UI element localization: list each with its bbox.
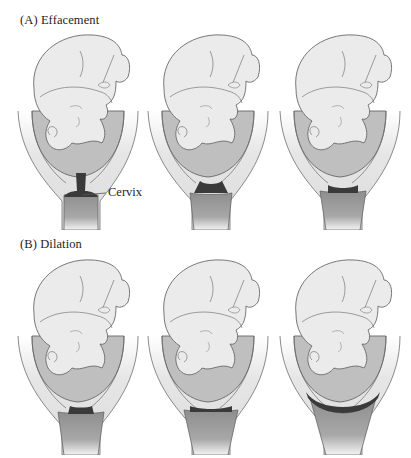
- panel-effacement-stage-2: [140, 25, 275, 230]
- fetus-uterus-illustration: [10, 250, 145, 455]
- panel-dilation-stage-2: [140, 250, 275, 455]
- panel-effacement-stage-3: [272, 25, 407, 230]
- fetus-uterus-illustration: [140, 25, 275, 230]
- cervix-callout-label: Cervix: [108, 185, 142, 200]
- panel-dilation-stage-3: [272, 250, 407, 455]
- fetus-uterus-illustration: [272, 250, 407, 455]
- fetus-uterus-illustration: [140, 250, 275, 455]
- panel-dilation-stage-1: [10, 250, 145, 455]
- fetus-uterus-illustration: [272, 25, 407, 230]
